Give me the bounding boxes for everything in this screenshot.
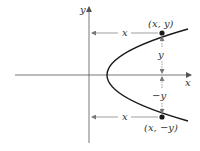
point-upper [159,30,164,35]
upper-vertical-label: y [157,49,164,60]
top-horizontal-label: x [122,27,128,38]
point-upper-label: (x, y) [148,18,174,29]
x-axis-label: x [185,77,191,88]
point-lower-label: (x, −y) [144,122,178,133]
point-lower [159,114,164,119]
diagram-svg: y x (x, y) (x, −y) x x y −y [0,0,200,151]
bottom-horizontal-label: x [122,111,128,122]
y-axis-label: y [79,4,86,15]
lower-vertical-label: −y [152,90,166,101]
parabola-symmetry-diagram: y x (x, y) (x, −y) x x y −y [0,0,200,151]
